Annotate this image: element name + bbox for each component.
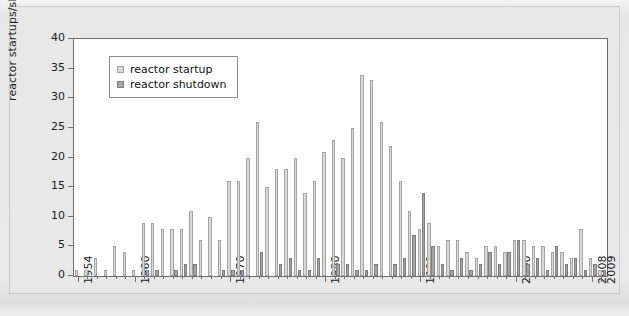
bar-startup (199, 240, 202, 276)
x-axis-tick (240, 276, 241, 279)
bar-startup (132, 270, 135, 276)
bar-shutdown (193, 264, 196, 276)
bar-shutdown (393, 264, 396, 276)
bar-startup (275, 169, 278, 276)
bar-startup (437, 246, 440, 276)
bar-shutdown (298, 270, 301, 276)
bar-startup (237, 181, 240, 276)
x-axis-tick (363, 276, 364, 279)
bar-startup (294, 158, 297, 277)
x-axis-tick (468, 276, 469, 279)
bar-startup (399, 181, 402, 276)
x-axis-tick (554, 276, 555, 279)
legend-label-shutdown: reactor shutdown (130, 79, 227, 90)
figure: 0510152025303540 reactor startups/shutdo… (0, 0, 629, 316)
legend-swatch-startup-icon (117, 66, 124, 73)
bar-shutdown (469, 270, 472, 276)
x-axis-tick (106, 276, 107, 279)
bar-startup (75, 270, 78, 276)
x-axis-tick (97, 276, 98, 279)
bar-startup (180, 229, 183, 276)
bar-startup (284, 169, 287, 276)
x-axis-tick (544, 276, 545, 279)
x-axis-tick (525, 276, 526, 279)
bar-startup (370, 80, 373, 276)
bar-shutdown (336, 264, 339, 276)
x-axis-tick (411, 276, 412, 279)
bar-startup (475, 258, 478, 276)
bar-shutdown (450, 270, 453, 276)
bar-startup (532, 246, 535, 276)
bar-shutdown (174, 270, 177, 276)
bar-shutdown (231, 270, 234, 276)
x-axis-tick (439, 276, 440, 279)
bar-startup (227, 181, 230, 276)
bar-shutdown (536, 258, 539, 276)
bar-shutdown (584, 270, 587, 276)
bar-shutdown (222, 270, 225, 276)
bar-startup (256, 122, 259, 276)
bar-shutdown (479, 264, 482, 276)
bar-shutdown (526, 264, 529, 276)
bar-startup (418, 229, 421, 276)
bar-shutdown (289, 258, 292, 276)
bar-shutdown (317, 258, 320, 276)
x-axis-tick (373, 276, 374, 279)
x-axis-tick (382, 276, 383, 279)
bar-startup (360, 75, 363, 276)
bar-shutdown (412, 235, 415, 276)
x-axis-tick (163, 276, 164, 279)
x-axis-tick (87, 276, 88, 279)
x-axis-tick (230, 276, 231, 282)
bar-shutdown (155, 270, 158, 276)
x-axis-tick (268, 276, 269, 279)
bar-shutdown (346, 264, 349, 276)
x-axis-tick (497, 276, 498, 279)
bar-shutdown (365, 270, 368, 276)
bar-shutdown (555, 246, 558, 276)
bar-shutdown (431, 246, 434, 276)
bar-startup (218, 240, 221, 276)
bar-startup (161, 229, 164, 276)
x-axis-tick (297, 276, 298, 279)
bar-shutdown (260, 252, 263, 276)
bar-startup (456, 240, 459, 276)
bar-startup (465, 252, 468, 276)
bar-shutdown (279, 264, 282, 276)
x-axis-tick (601, 276, 602, 282)
bar-shutdown (241, 270, 244, 276)
bar-shutdown (374, 264, 377, 276)
x-axis-tick (392, 276, 393, 279)
bar-startup (189, 211, 192, 276)
bar-startup (142, 223, 145, 276)
x-axis-tick (182, 276, 183, 279)
bar-startup (208, 217, 211, 276)
x-axis-tick (458, 276, 459, 279)
x-axis-tick (211, 276, 212, 279)
x-axis-tick (535, 276, 536, 279)
bar-startup (408, 211, 411, 276)
x-axis-tick (259, 276, 260, 279)
bar-startup (494, 246, 497, 276)
legend-item-reactor-shutdown: reactor shutdown (117, 77, 227, 92)
x-axis-tick (144, 276, 145, 279)
x-axis-tick (192, 276, 193, 279)
legend-swatch-shutdown-icon (117, 81, 124, 88)
x-axis-tick (325, 276, 326, 282)
x-axis-tick (249, 276, 250, 279)
x-axis-tick (316, 276, 317, 279)
bar-startup (427, 223, 430, 276)
bar-startup (513, 240, 516, 276)
x-axis-tick (173, 276, 174, 279)
x-axis-tick (420, 276, 421, 282)
x-axis-tick (478, 276, 479, 279)
x-axis-tick (116, 276, 117, 279)
bar-shutdown (441, 264, 444, 276)
bar-startup (522, 240, 525, 276)
bar-startup (341, 158, 344, 277)
x-axis-tick (592, 276, 593, 282)
bar-startup (551, 252, 554, 276)
x-axis-tick (135, 276, 136, 282)
x-axis-tick (354, 276, 355, 279)
bar-shutdown (403, 258, 406, 276)
